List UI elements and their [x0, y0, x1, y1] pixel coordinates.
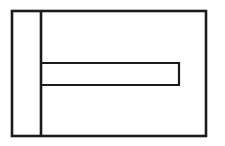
figure-canvas [0, 0, 225, 146]
line-drawing-svg [0, 0, 225, 146]
